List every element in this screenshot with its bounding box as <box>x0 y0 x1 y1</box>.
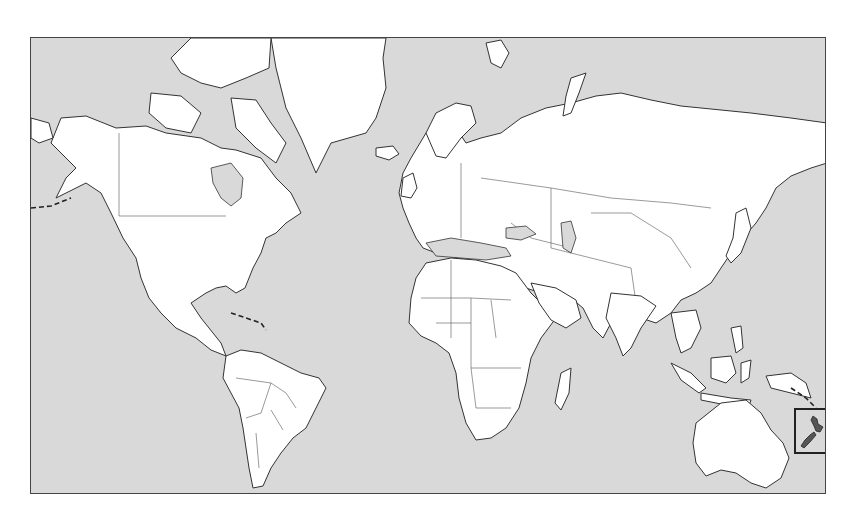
indochina <box>671 310 701 353</box>
aleutian-islands <box>31 198 71 208</box>
borneo <box>711 356 736 383</box>
madagascar <box>555 368 571 410</box>
arctic-islands <box>171 38 271 88</box>
world-map <box>30 37 826 494</box>
sumatra <box>671 363 706 393</box>
new-zealand-highlight-box <box>794 408 826 454</box>
alaska-west <box>31 118 53 143</box>
south-america <box>223 350 326 488</box>
new-guinea <box>766 373 811 398</box>
india <box>606 293 656 356</box>
new-zealand-south-island <box>801 432 816 448</box>
map-svg <box>31 38 826 494</box>
sulawesi <box>741 360 751 383</box>
svalbard <box>486 40 509 68</box>
australia <box>693 400 789 488</box>
caribbean-islands <box>231 313 266 330</box>
iceland <box>376 146 399 160</box>
new-zealand-north-island <box>811 416 823 432</box>
greenland <box>271 38 386 173</box>
new-zealand-inset <box>796 410 825 452</box>
victoria-island <box>149 93 201 133</box>
philippines <box>731 326 743 353</box>
